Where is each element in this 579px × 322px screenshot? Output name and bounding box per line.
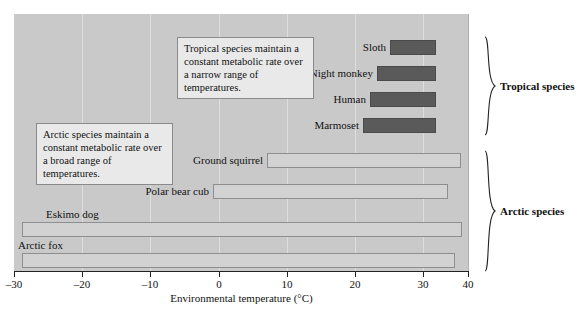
tick-label-20: 20 — [335, 278, 375, 290]
tropical-bracket — [483, 36, 497, 136]
tropical-bracket-label: Tropical species — [500, 80, 574, 92]
bar-label-polar-bear-cub: Polar bear cub — [119, 185, 209, 198]
tick-minus10 — [150, 271, 151, 277]
bar-label-ground-squirrel: Ground squirrel — [173, 154, 263, 167]
tick-0 — [219, 271, 220, 277]
arctic-bracket — [483, 150, 497, 272]
tick-label-40: 40 — [448, 278, 488, 290]
bar-eskimo-dog — [22, 222, 462, 237]
bar-label-eskimo-dog: Eskimo dog — [46, 208, 99, 221]
bar-human — [370, 92, 436, 107]
x-axis-title: Environmental temperature (°C) — [14, 292, 469, 304]
metabolic-rate-temperature-chart: Sloth Night monkey Human Marmoset Ground… — [0, 0, 579, 322]
tick-30 — [423, 271, 424, 277]
bar-label-marmoset: Marmoset — [273, 119, 359, 132]
bar-ground-squirrel — [267, 153, 461, 168]
tick-label-30: 30 — [403, 278, 443, 290]
tick-label-0: 0 — [199, 278, 239, 290]
tick-20 — [355, 271, 356, 277]
bar-sloth — [390, 40, 436, 55]
tick-label-minus30: –30 — [0, 278, 34, 290]
bar-polar-bear-cub — [213, 184, 448, 199]
tick-10 — [287, 271, 288, 277]
bar-marmoset — [363, 118, 436, 133]
arctic-callout: Arctic species maintain a constant metab… — [36, 123, 173, 185]
bar-arctic-fox — [22, 253, 455, 268]
tick-label-minus20: –20 — [62, 278, 102, 290]
bar-label-arctic-fox: Arctic fox — [18, 239, 63, 252]
tick-minus30 — [14, 271, 15, 277]
tick-minus20 — [82, 271, 83, 277]
tick-label-10: 10 — [267, 278, 307, 290]
tick-40 — [468, 271, 469, 277]
bar-night-monkey — [377, 66, 436, 81]
tick-label-minus10: –10 — [130, 278, 170, 290]
arctic-bracket-label: Arctic species — [500, 205, 564, 217]
tropical-callout: Tropical species maintain a constant met… — [177, 37, 314, 99]
